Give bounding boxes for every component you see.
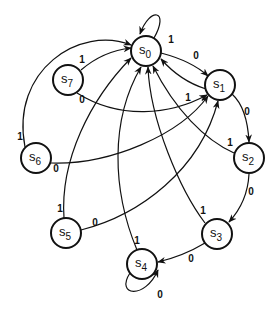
transition-arrow xyxy=(140,15,160,38)
transition-label: 1 xyxy=(227,137,233,148)
transition-arrow xyxy=(81,101,218,230)
state-node-s0: s0 xyxy=(131,36,161,66)
transition-arrow xyxy=(161,53,208,76)
transition-label: 1 xyxy=(200,205,206,216)
transition-label: 1 xyxy=(168,34,174,45)
transition-arrow xyxy=(118,67,141,250)
transition-arrow xyxy=(158,243,205,262)
state-diagram-canvas: 1010101010101010 s0s1s2s3s4s5s6s7 xyxy=(0,0,276,316)
transition-arrow xyxy=(161,59,206,89)
transition-label: 1 xyxy=(57,203,63,214)
transition-label: 0 xyxy=(53,163,59,174)
transition-arrow xyxy=(148,67,205,223)
state-node-s1: s1 xyxy=(205,70,235,100)
edge-s1-to-s0: 1 xyxy=(161,59,206,103)
state-node-s3: s3 xyxy=(202,219,232,249)
state-node-s7: s7 xyxy=(53,65,83,95)
transition-label: 0 xyxy=(244,106,250,117)
transition-label: 0 xyxy=(193,50,199,61)
transition-arrow xyxy=(229,174,249,222)
edge-s5-to-s1: 0 xyxy=(81,101,218,230)
transition-label: 1 xyxy=(134,235,140,246)
state-diagram: 1010101010101010 s0s1s2s3s4s5s6s7 xyxy=(0,0,276,316)
edge-s1-to-s2: 0 xyxy=(232,94,250,142)
transition-label: 0 xyxy=(248,186,254,197)
transition-label: 0 xyxy=(188,253,194,264)
state-node-s6: s6 xyxy=(21,143,51,173)
transition-label: 0 xyxy=(157,289,163,300)
transition-arrow xyxy=(51,96,208,163)
transition-label: 0 xyxy=(79,94,85,105)
state-node-s2: s2 xyxy=(234,143,264,173)
edge-s3-to-s4: 0 xyxy=(158,243,205,264)
edge-s3-to-s0: 1 xyxy=(148,67,206,223)
edge-s4-to-s0: 1 xyxy=(118,67,141,250)
edge-s6-to-s1: 0 xyxy=(51,96,208,174)
state-node-s4: s4 xyxy=(127,249,157,279)
state-node-s5: s5 xyxy=(51,218,81,248)
transition-label: 0 xyxy=(92,217,98,228)
edge-s2-to-s3: 0 xyxy=(229,174,254,222)
transition-arrow xyxy=(232,94,249,142)
transition-label: 1 xyxy=(79,54,85,65)
edge-s0-to-s1: 0 xyxy=(161,50,208,76)
transition-label: 1 xyxy=(185,92,191,103)
transition-label: 1 xyxy=(17,131,23,142)
